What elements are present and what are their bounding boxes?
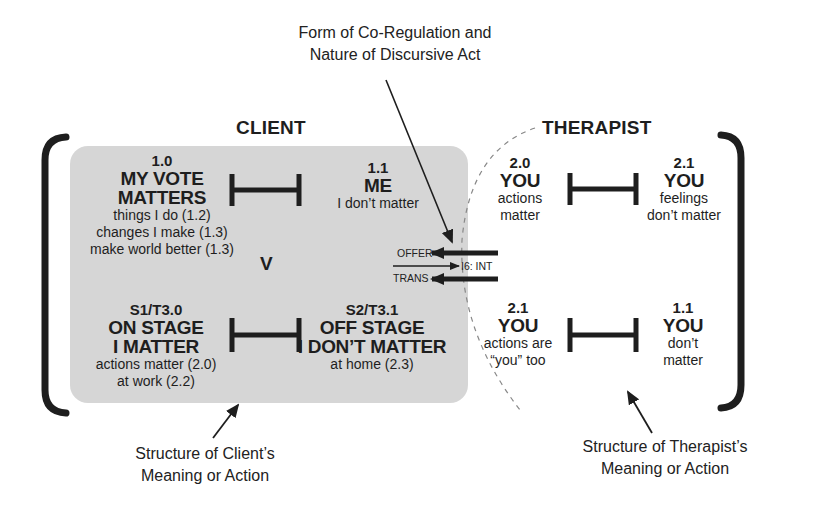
therapist-structure-annotation-line1: Structure of Therapist’s bbox=[545, 436, 785, 458]
node-title: YOU bbox=[663, 316, 703, 335]
node-detail: don’t bbox=[663, 335, 703, 352]
right-bracket-icon bbox=[721, 135, 741, 408]
therapist-node-actions-matter: 2.0 YOU actions matter bbox=[498, 155, 542, 224]
client-bottom-opposition-bar-icon bbox=[232, 318, 299, 352]
node-detail: feelings bbox=[647, 190, 721, 207]
therapist-structure-pointer-arrow bbox=[628, 392, 652, 433]
node-detail: actions are bbox=[484, 335, 552, 352]
client-structure-annotation-line2: Meaning or Action bbox=[100, 465, 310, 487]
therapist-bottom-opposition-bar-icon bbox=[570, 318, 636, 352]
node-title: MY VOTE bbox=[90, 169, 234, 188]
node-code: 2.1 bbox=[484, 300, 552, 316]
co-regulation-annotation-line1: Form of Co-Regulation and bbox=[250, 22, 540, 44]
int-label: I6: INT bbox=[461, 260, 493, 272]
node-title: YOU bbox=[647, 171, 721, 190]
node-code: S1/T3.0 bbox=[96, 302, 217, 318]
node-title: ON STAGE bbox=[96, 318, 217, 337]
node-code: 2.0 bbox=[498, 155, 542, 171]
client-structure-pointer-arrow bbox=[213, 405, 238, 438]
node-title: I MATTER bbox=[96, 337, 217, 356]
node-code: 1.0 bbox=[90, 153, 234, 169]
versus-label: V bbox=[260, 253, 273, 275]
node-code: 1.1 bbox=[337, 160, 419, 176]
co-regulation-annotation: Form of Co-Regulation and Nature of Disc… bbox=[250, 22, 540, 66]
client-node-my-vote-matters: 1.0 MY VOTE MATTERS things I do (1.2) ch… bbox=[90, 153, 234, 258]
client-heading: CLIENT bbox=[236, 117, 306, 139]
client-node-on-stage: S1/T3.0 ON STAGE I MATTER actions matter… bbox=[96, 302, 217, 390]
node-title: ME bbox=[337, 176, 419, 195]
client-structure-annotation-line1: Structure of Client’s bbox=[100, 443, 310, 465]
node-detail: don’t matter bbox=[647, 207, 721, 224]
node-code: S2/T3.1 bbox=[298, 302, 447, 318]
node-detail: matter bbox=[663, 352, 703, 369]
node-detail: at home (2.3) bbox=[298, 356, 447, 373]
client-node-off-stage: S2/T3.1 OFF STAGE I DON’T MATTER at home… bbox=[298, 302, 447, 373]
therapist-node-you-dont-matter: 1.1 YOU don’t matter bbox=[663, 300, 703, 369]
node-code: 2.1 bbox=[647, 155, 721, 171]
node-detail: I don’t matter bbox=[337, 195, 419, 212]
node-title: YOU bbox=[498, 171, 542, 190]
offer-label: OFFER bbox=[397, 247, 433, 259]
node-detail: changes I make (1.3) bbox=[90, 224, 234, 241]
client-top-opposition-bar-icon bbox=[232, 174, 299, 206]
node-code: 1.1 bbox=[663, 300, 703, 316]
left-bracket-icon bbox=[45, 137, 66, 413]
therapist-heading: THERAPIST bbox=[542, 117, 651, 139]
node-detail: make world better (1.3) bbox=[90, 241, 234, 258]
node-title: I DON’T MATTER bbox=[298, 337, 447, 356]
therapist-node-actions-are-you: 2.1 YOU actions are “you” too bbox=[484, 300, 552, 369]
therapist-top-opposition-bar-icon bbox=[570, 173, 636, 205]
therapist-structure-annotation-line2: Meaning or Action bbox=[545, 458, 785, 480]
node-detail: “you” too bbox=[484, 352, 552, 369]
node-detail: actions bbox=[498, 190, 542, 207]
node-detail: matter bbox=[498, 207, 542, 224]
node-detail: at work (2.2) bbox=[96, 373, 217, 390]
node-detail: things I do (1.2) bbox=[90, 207, 234, 224]
therapist-structure-annotation: Structure of Therapist’s Meaning or Acti… bbox=[545, 436, 785, 480]
node-title: MATTERS bbox=[90, 188, 234, 207]
node-title: OFF STAGE bbox=[298, 318, 447, 337]
client-structure-annotation: Structure of Client’s Meaning or Action bbox=[100, 443, 310, 487]
node-detail: actions matter (2.0) bbox=[96, 356, 217, 373]
client-node-me: 1.1 ME I don’t matter bbox=[337, 160, 419, 212]
trans-label: TRANS bbox=[393, 272, 429, 284]
therapist-node-feelings-dont-matter: 2.1 YOU feelings don’t matter bbox=[647, 155, 721, 224]
node-title: YOU bbox=[484, 316, 552, 335]
co-regulation-annotation-line2: Nature of Discursive Act bbox=[250, 44, 540, 66]
